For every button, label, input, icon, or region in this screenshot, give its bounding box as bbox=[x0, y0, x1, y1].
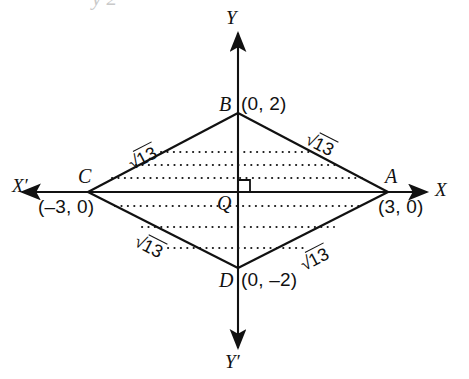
vertex-coord-A: (3, 0) bbox=[378, 197, 424, 216]
axis-label-x-negative: X′ bbox=[12, 176, 28, 195]
side-CD bbox=[88, 192, 238, 268]
vertex-label-C: C bbox=[78, 166, 91, 186]
right-angle-marker bbox=[238, 180, 250, 192]
vertex-label-A: A bbox=[385, 166, 397, 186]
diagram-canvas: y 2 bbox=[0, 0, 469, 379]
side-CB bbox=[88, 113, 238, 192]
vertex-label-B: B bbox=[219, 94, 231, 114]
axis-label-y-negative: Y′ bbox=[225, 352, 240, 371]
axis-label-x-positive: X bbox=[435, 180, 447, 199]
vertex-coord-C: (–3, 0) bbox=[38, 197, 94, 216]
vertex-label-D: D bbox=[219, 270, 233, 290]
origin-label-Q: Q bbox=[217, 193, 231, 213]
rhombus-figure bbox=[0, 0, 469, 379]
vertex-coord-B: (0, 2) bbox=[241, 94, 287, 113]
vertex-coord-D: (0, –2) bbox=[241, 270, 297, 289]
axis-label-y-positive: Y bbox=[226, 8, 237, 27]
